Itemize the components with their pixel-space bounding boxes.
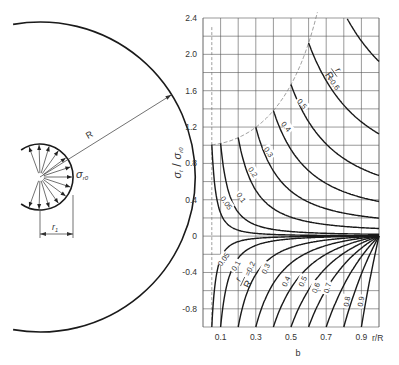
radial-curve-label: 0.9	[356, 296, 367, 308]
x-axis-ticks: 0.10.30.50.70.9	[215, 332, 368, 342]
x-tick-label: 0.9	[355, 332, 367, 342]
inner-radius-label: r1	[52, 222, 58, 233]
outer-radius-dimension-line	[40, 95, 171, 177]
y-tick-label: 0	[192, 231, 197, 241]
arrow-head-icon	[67, 175, 72, 179]
arrow-head-icon	[65, 184, 70, 188]
x-tick-label: 0.5	[285, 332, 297, 342]
y-axis-ticks: 2.42.01.61.20.80.40-0.4-0.8	[182, 13, 197, 314]
tangential-curve-0.3	[256, 127, 379, 218]
svg-text:σt / σr0: σt / σr0	[169, 147, 184, 179]
y-tick-label: -0.4	[182, 267, 197, 277]
arrow-head-icon	[29, 202, 33, 207]
x-axis-label: r/R	[372, 333, 383, 343]
arrow-head-icon	[46, 146, 50, 151]
radial-curve-0.9	[361, 236, 379, 327]
arrow-head-icon	[60, 192, 65, 197]
x-tick-label: 0.1	[215, 332, 227, 342]
arrow-head-icon	[37, 145, 41, 150]
y-tick-label: 0.8	[185, 158, 197, 168]
x-tick-label: 0.3	[250, 332, 262, 342]
arrow-head-icon	[54, 151, 59, 156]
tangential-curve-0.05	[212, 145, 379, 236]
arrow-head-icon	[65, 167, 70, 171]
y-tick-label: 1.2	[185, 122, 197, 132]
arrow-head-icon	[37, 204, 41, 209]
stress-diagram-figure: R σr0 r1 2.42.01.61.20.80.40-0.4-0.8 0.1…	[0, 0, 399, 365]
radial-curve-label: 0.8	[341, 296, 352, 308]
stress-ratio-chart: 2.42.01.61.20.80.40-0.4-0.8 0.10.30.50.7…	[169, 12, 383, 358]
tangential-curve-0.7	[347, 19, 379, 62]
arrow-head-icon	[54, 198, 59, 203]
arrow-head-icon	[40, 232, 46, 236]
y-tick-label: 0.4	[185, 195, 197, 205]
y-tick-label: 1.6	[185, 86, 197, 96]
stress-label: σr0	[76, 168, 89, 181]
y-tick-label: -0.8	[182, 304, 197, 314]
internal-pressure-arrows	[29, 145, 72, 209]
outer-radius-label: R	[84, 129, 95, 141]
y-tick-label: 2.4	[185, 13, 197, 23]
x-tick-label: 0.7	[320, 332, 332, 342]
cylinder-cross-section: R σr0 r1	[13, 22, 195, 332]
arrow-head-icon	[67, 232, 73, 236]
arrow-head-icon	[46, 202, 50, 207]
dashed-envelope-curve	[212, 12, 318, 145]
radial-curve-label: 0.05	[216, 251, 232, 268]
y-axis-label: σt / σr0	[169, 147, 184, 179]
y-tick-label: 2.0	[185, 49, 197, 59]
tangential-curve-0.1	[221, 143, 379, 234]
radial-curve-label: 0.7	[322, 282, 333, 294]
arrow-head-icon	[29, 147, 33, 152]
arrow-head-icon	[165, 95, 171, 100]
x-axis-sublabel: b	[295, 348, 300, 358]
